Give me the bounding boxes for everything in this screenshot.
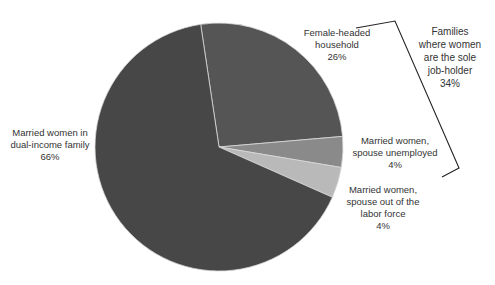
annotation-line: job-holder: [410, 64, 490, 77]
label-line: spouse out of the: [342, 196, 424, 208]
label-spouse-unemployed: Married women, spouse unemployed 4%: [349, 135, 441, 171]
annotation-line: Families: [410, 25, 490, 38]
label-value: 4%: [342, 220, 424, 232]
label-line: Female-headed: [292, 27, 382, 39]
label-line: dual-income family: [2, 139, 98, 151]
label-line: household: [292, 39, 382, 51]
label-female-headed: Female-headed household 26%: [292, 27, 382, 63]
label-spouse-out-of-labor-force: Married women, spouse out of the labor f…: [342, 184, 424, 232]
annotation-line: are the sole: [410, 51, 490, 64]
annotation-sole-job-holder: Families where women are the sole job-ho…: [410, 25, 490, 90]
label-line: labor force: [342, 208, 424, 220]
label-line: spouse unemployed: [349, 147, 441, 159]
label-line: Married women,: [349, 135, 441, 147]
annotation-line: where women: [410, 38, 490, 51]
annotation-value: 34%: [410, 77, 490, 90]
label-dual-income: Married women in dual-income family 66%: [2, 127, 98, 163]
label-line: Married women in: [2, 127, 98, 139]
label-line: Married women,: [342, 184, 424, 196]
label-value: 26%: [292, 51, 382, 63]
label-value: 4%: [349, 159, 441, 171]
label-value: 66%: [2, 151, 98, 163]
